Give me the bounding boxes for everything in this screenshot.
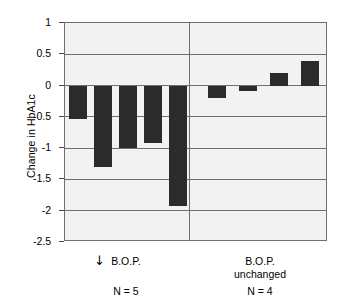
bar-bop-decreased-1 — [69, 86, 87, 119]
y-tick-label: -2 — [11, 205, 51, 215]
bar-bop-unchanged-4 — [301, 61, 319, 86]
y-axis-title: Change in HbA1c — [25, 51, 37, 221]
group-n-bop-decreased: N = 5 — [66, 285, 186, 297]
bar-bop-unchanged-3 — [270, 73, 288, 86]
y-tick-label: 0.5 — [11, 48, 51, 58]
y-tick-label: -2.5 — [11, 236, 51, 246]
bar-bop-decreased-4 — [144, 86, 162, 144]
plot-area — [64, 22, 327, 241]
bar-bop-decreased-5 — [169, 86, 187, 206]
group-n-bop-unchanged: N = 4 — [200, 285, 320, 297]
bar-bop-unchanged-2 — [239, 86, 257, 92]
down-arrow-icon: ↓ — [94, 255, 105, 267]
bar-bop-decreased-3 — [119, 86, 137, 149]
group-caption-bop-unchanged: B.O.P. unchanged — [200, 255, 320, 280]
y-tick-label: 0 — [11, 80, 51, 90]
y-tick-mark — [59, 241, 64, 242]
y-tick-label: 1 — [11, 17, 51, 27]
gridline--1-5 — [65, 179, 326, 180]
group-divider — [189, 23, 190, 240]
y-tick-label: -1 — [11, 142, 51, 152]
y-tick-label: -1.5 — [11, 173, 51, 183]
bar-bop-decreased-2 — [94, 86, 112, 167]
gridline-0-5 — [65, 54, 326, 55]
bar-bop-unchanged-1 — [208, 86, 226, 99]
y-tick-label: -0.5 — [11, 111, 51, 121]
bar-chart-figure: Change in HbA1c 10.50-0.5-1-1.5-2-2.5 B.… — [0, 0, 340, 304]
group-caption-bop-decreased: B.O.P. — [66, 255, 186, 268]
gridline--2 — [65, 210, 326, 211]
